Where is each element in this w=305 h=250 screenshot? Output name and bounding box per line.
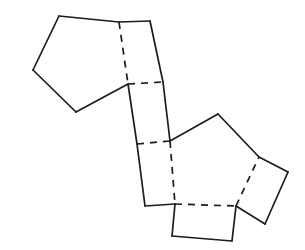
face-square-bottom	[172, 204, 236, 241]
pentagonal-prism-net-figure	[0, 0, 305, 250]
diagram-canvas	[0, 0, 305, 250]
band-upper-top-edge	[119, 21, 150, 22]
